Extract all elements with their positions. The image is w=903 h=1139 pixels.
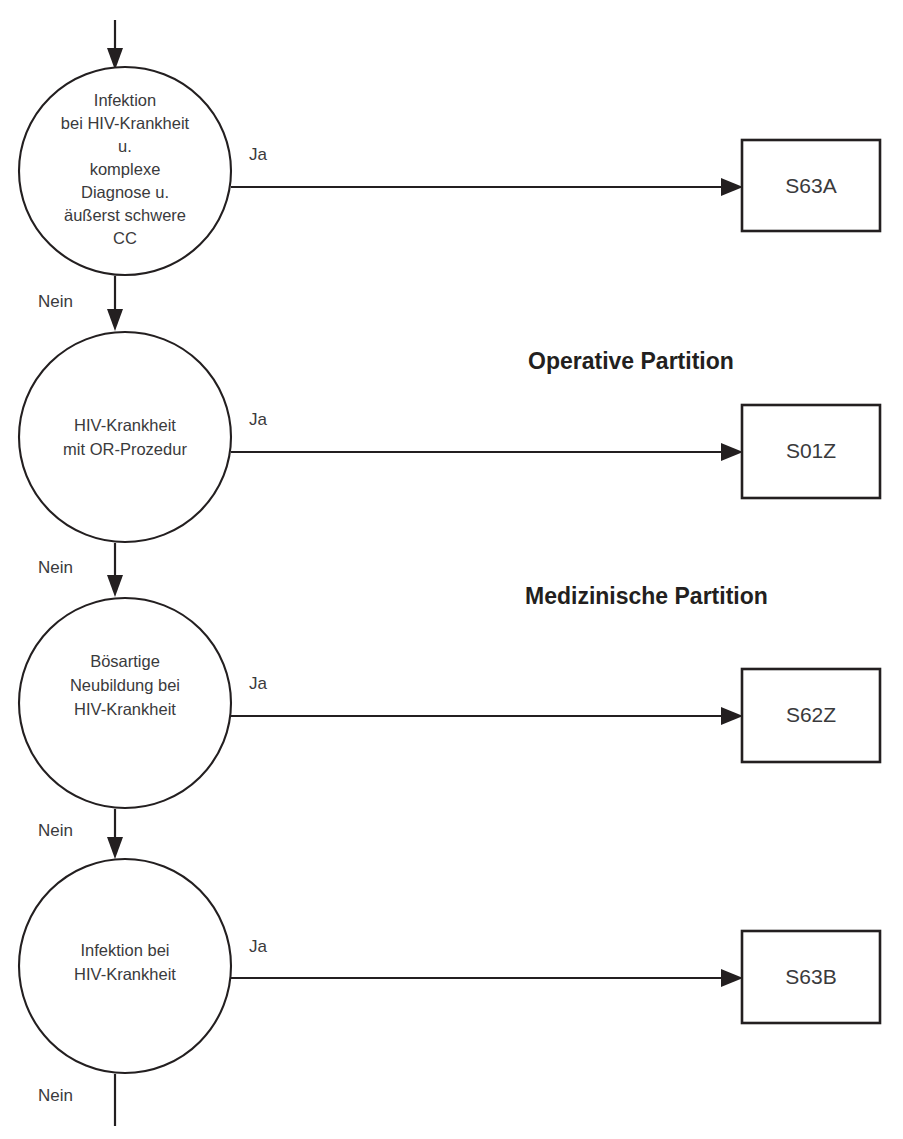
decision-node-1-label-line-1: Infektion [94, 91, 156, 109]
edge-node-2-yes-label: Ja [249, 410, 268, 429]
edge-node-3-no: Nein [38, 809, 123, 859]
decision-node-1-label-line-2: bei HIV-Krankheit [61, 114, 190, 132]
decision-node-2[interactable]: HIV-Krankheit mit OR-Prozedur [19, 332, 231, 542]
edge-node-4-no-label: Nein [38, 1086, 73, 1105]
decision-node-4-label-line-1: Infektion bei [81, 941, 170, 959]
terminal-box-3[interactable]: S62Z [742, 669, 880, 762]
edge-node-3-yes-label: Ja [249, 674, 268, 693]
partition-label-medizinische: Medizinische Partition [525, 583, 768, 609]
edge-node-4-no: Nein [38, 1074, 115, 1126]
partition-label-operative: Operative Partition [528, 348, 734, 374]
decision-node-3-label-line-1: Bösartige [90, 652, 160, 670]
terminal-box-4[interactable]: S63B [742, 931, 880, 1023]
decision-node-4-label-line-2: HIV-Krankheit [74, 965, 176, 983]
decision-node-4[interactable]: Infektion bei HIV-Krankheit [19, 859, 231, 1073]
decision-node-1-label-line-4: komplexe [90, 160, 161, 178]
edge-node-2-yes: Ja [231, 410, 743, 461]
entry-arrow [107, 20, 123, 70]
edge-node-3-no-label: Nein [38, 821, 73, 840]
edge-node-3-yes: Ja [231, 674, 743, 725]
decision-node-1[interactable]: Infektion bei HIV-Krankheit u. komplexe … [19, 67, 231, 275]
decision-node-1-label-line-3: u. [118, 137, 132, 155]
terminal-box-1[interactable]: S63A [742, 140, 880, 231]
decision-node-2-label-line-2: mit OR-Prozedur [63, 440, 187, 458]
edge-node-4-yes-label: Ja [249, 937, 268, 956]
flowchart-canvas: Infektion bei HIV-Krankheit u. komplexe … [0, 0, 903, 1139]
decision-node-3-label-line-2: Neubildung bei [70, 676, 180, 694]
decision-node-3[interactable]: Bösartige Neubildung bei HIV-Krankheit [19, 598, 231, 808]
terminal-box-2-label: S01Z [786, 439, 836, 462]
decision-node-2-shape[interactable] [19, 332, 231, 542]
edge-node-4-yes: Ja [231, 937, 743, 987]
terminal-box-2[interactable]: S01Z [742, 405, 880, 498]
edge-node-2-no: Nein [38, 543, 123, 597]
decision-node-2-label-line-1: HIV-Krankheit [74, 416, 176, 434]
edge-node-1-no-label: Nein [38, 292, 73, 311]
decision-node-1-label-line-7: CC [113, 229, 137, 247]
terminal-box-4-label: S63B [785, 965, 836, 988]
decision-node-1-label-line-5: Diagnose u. [81, 183, 169, 201]
edge-node-2-no-label: Nein [38, 558, 73, 577]
terminal-box-1-label: S63A [785, 174, 836, 197]
edge-node-1-yes: Ja [231, 145, 743, 196]
decision-node-1-label-line-6: äußerst schwere [64, 206, 186, 224]
terminal-box-3-label: S62Z [786, 703, 836, 726]
edge-node-1-yes-label: Ja [249, 145, 268, 164]
decision-node-3-label-line-3: HIV-Krankheit [74, 700, 176, 718]
edge-node-1-no: Nein [38, 276, 123, 331]
